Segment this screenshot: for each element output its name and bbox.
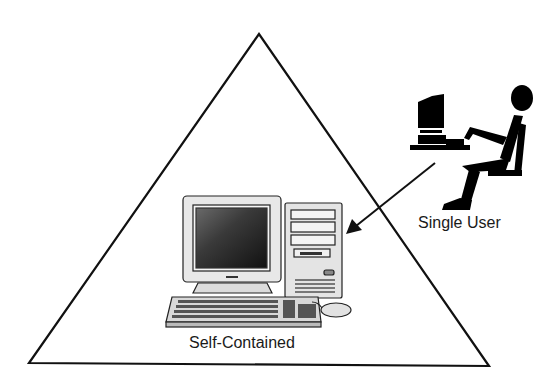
seated-user-at-computer-icon (410, 85, 533, 210)
self-contained-label: Self-Contained (189, 335, 295, 351)
diagram-canvas (0, 0, 553, 386)
single-user-label: Single User (418, 215, 501, 231)
desktop-computer-icon (166, 196, 351, 327)
